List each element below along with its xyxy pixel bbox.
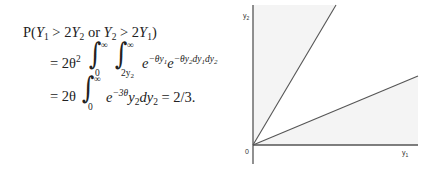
region-diagram: 0 y1 y2 <box>0 0 437 172</box>
x-axis-label: y1 <box>402 149 409 158</box>
sub: 1 <box>406 152 409 158</box>
y-axis-label: y2 <box>243 12 250 21</box>
sub: 2 <box>247 15 250 21</box>
origin-label: 0 <box>245 148 249 155</box>
